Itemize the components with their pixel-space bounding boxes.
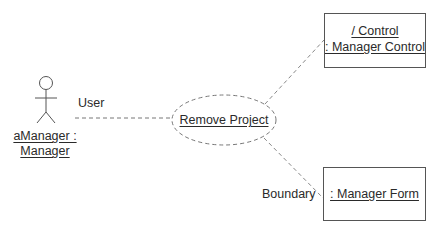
boundary-object-box[interactable]: : Manager Form — [323, 167, 426, 221]
control-association-line — [265, 40, 324, 104]
boundary-object-name: : Manager Form — [324, 187, 425, 202]
actor-name-line1: aManager : — [4, 129, 86, 144]
boundary-association-label: Boundary — [262, 187, 316, 202]
use-case-label[interactable]: Remove Project — [172, 113, 276, 128]
control-object-box[interactable]: / Control : Manager Control — [324, 13, 426, 68]
actor-icon — [35, 77, 57, 124]
control-object-role: / Control — [325, 24, 425, 39]
control-object-name: : Manager Control — [323, 40, 427, 55]
user-association-label: User — [78, 96, 104, 111]
actor-name-line2: Manager — [4, 144, 86, 159]
